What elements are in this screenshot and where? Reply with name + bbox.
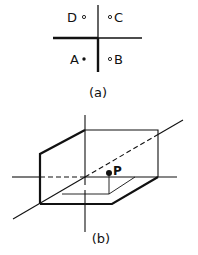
axis-y-back: [158, 120, 183, 135]
figure-b: [12, 115, 183, 232]
axis-y-front: [13, 177, 85, 219]
point-p-marker: [106, 170, 112, 176]
diagram-svg: D C A B (a) P (b): [0, 0, 198, 255]
point-c-marker: [108, 15, 111, 18]
caption-a: (a): [89, 85, 107, 100]
point-c-label: C: [114, 10, 123, 25]
caption-b: (b): [92, 231, 110, 246]
projection-rectangle: [62, 177, 135, 194]
box-bottom-front-edges: [40, 177, 158, 204]
point-p-label: P: [113, 164, 122, 178]
point-a-label: A: [70, 52, 79, 67]
figure-canvas: D C A B (a) P (b): [0, 0, 198, 255]
point-a-marker: [82, 57, 85, 60]
point-b-label: B: [114, 52, 123, 67]
box-left-face-edges: [40, 130, 85, 204]
point-d-label: D: [67, 10, 77, 25]
point-d-marker: [82, 15, 85, 18]
point-b-marker: [108, 57, 111, 60]
